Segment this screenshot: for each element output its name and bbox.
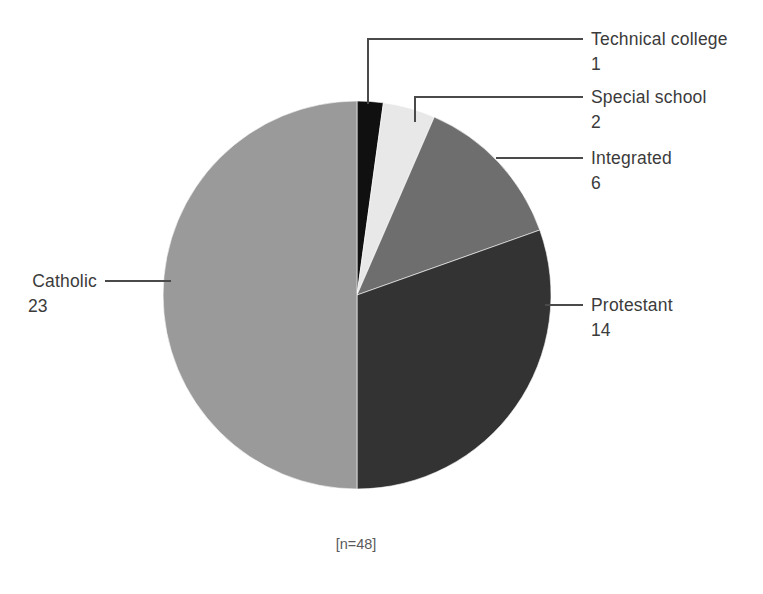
leader-line-technical-college	[368, 39, 583, 104]
pie-slices	[163, 101, 551, 489]
callout-label-protestant: Protestant	[591, 295, 673, 315]
leader-line-special-school	[415, 97, 583, 122]
callout-label-integrated: Integrated	[591, 148, 672, 168]
pie-slice-catholic[interactable]	[163, 101, 357, 489]
callout-label-special-school: Special school	[591, 87, 707, 107]
pie-chart-svg: Technical college 1 Special school 2 Int…	[0, 0, 763, 594]
callout-label-technical-college: Technical college	[591, 29, 728, 49]
callout-catholic: Catholic 23	[28, 271, 97, 316]
callout-value-integrated: 6	[591, 173, 601, 193]
callout-value-technical-college: 1	[591, 54, 601, 74]
callout-integrated: Integrated 6	[591, 148, 672, 193]
sample-size-footnote: [n=48]	[336, 536, 377, 552]
callout-value-special-school: 2	[591, 112, 601, 132]
callout-protestant: Protestant 14	[591, 295, 673, 340]
callout-technical-college: Technical college 1	[591, 29, 728, 74]
callout-label-catholic: Catholic	[32, 271, 97, 291]
callout-special-school: Special school 2	[591, 87, 707, 132]
pie-chart-figure: Technical college 1 Special school 2 Int…	[0, 0, 763, 594]
callout-value-catholic: 23	[28, 296, 47, 316]
callout-value-protestant: 14	[591, 320, 611, 340]
